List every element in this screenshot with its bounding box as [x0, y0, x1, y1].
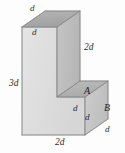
label-d-top-front: d	[32, 28, 37, 37]
label-d-step-left: d	[73, 104, 78, 113]
figure-container: d d 2d 3d A d d B d 2d	[0, 0, 125, 153]
label-3d-left: 3d	[9, 79, 19, 89]
label-face-a: A	[84, 86, 90, 96]
label-d-step-lower: d	[85, 113, 90, 122]
label-face-b: B	[104, 103, 110, 113]
label-d-bottom-right: d	[105, 125, 110, 134]
label-2d-bottom: 2d	[55, 138, 65, 148]
label-d-top: d	[30, 4, 35, 13]
label-2d-right: 2d	[84, 43, 94, 53]
